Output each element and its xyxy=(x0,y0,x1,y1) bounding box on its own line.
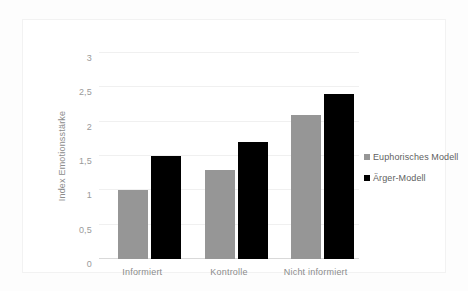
bar-group: Informiert xyxy=(99,53,186,259)
x-axis-category-label: Kontrolle xyxy=(186,267,273,277)
legend-swatch-icon xyxy=(364,175,370,181)
y-axis-title: Index Emotionsstärke xyxy=(55,53,69,259)
chart-legend: Euphorisches ModellÄrger-Modell xyxy=(364,152,464,194)
legend-swatch-icon xyxy=(364,154,370,160)
y-axis-title-label: Index Emotionsstärke xyxy=(57,111,67,202)
legend-entry[interactable]: Ärger-Modell xyxy=(364,173,464,183)
bar-group: Kontrolle xyxy=(186,53,273,259)
legend-entry[interactable]: Euphorisches Modell xyxy=(364,152,464,162)
bar-euphorisches-modell xyxy=(118,190,148,259)
legend-label: Ärger-Modell xyxy=(373,173,426,183)
bar-euphorisches-modell xyxy=(291,115,321,259)
legend-label: Euphorisches Modell xyxy=(373,152,458,162)
x-axis-category-label: Nicht informiert xyxy=(272,267,359,277)
plot-area: 00,511,522,53InformiertKontrolleNicht in… xyxy=(99,53,359,259)
bar-aerger-modell xyxy=(238,142,268,259)
x-axis-category-label: Informiert xyxy=(99,267,186,277)
chart-frame: Index Emotionsstärke 00,511,522,53Inform… xyxy=(22,19,446,273)
bar-aerger-modell xyxy=(151,156,181,259)
bar-group: Nicht informiert xyxy=(272,53,359,259)
bar-aerger-modell xyxy=(324,94,354,259)
bar-euphorisches-modell xyxy=(205,170,235,259)
bar-chart-figure: Index Emotionsstärke 00,511,522,53Inform… xyxy=(0,0,468,291)
